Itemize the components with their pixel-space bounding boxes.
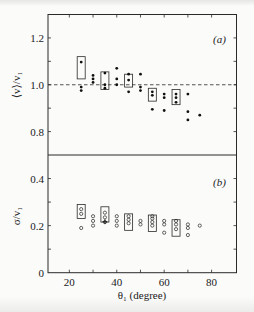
data-point-open [91,224,94,227]
y-tick-label: 0.4 [30,173,44,185]
y-tick-label: 0 [39,267,45,279]
data-point [80,61,83,64]
data-point [92,74,95,77]
data-point [186,110,189,113]
data-point [163,96,166,99]
panel-a-label: (a) [213,33,226,46]
data-point [92,81,95,84]
range-box [77,204,85,218]
data-point-open [163,223,166,226]
data-point [198,114,201,117]
data-point-open [80,226,83,229]
data-point [151,90,154,93]
data-point-open [163,219,166,222]
data-point-open [186,223,189,226]
data-point [92,77,95,80]
data-point-open [163,231,166,234]
two-panel-figure: 0.81.01.2 00.20.420406080 (a) (b) ⟨v⟩/v₁… [0,0,254,312]
y-axis-label-a: ⟨v⟩/v₁ [10,72,22,99]
data-point [139,89,142,92]
data-point [151,108,154,111]
data-point [163,109,166,112]
data-point-open [91,219,94,222]
range-box [125,214,133,230]
data-point [139,73,142,76]
panel-b-label: (b) [213,176,226,189]
data-point-open [115,215,118,218]
data-point [104,72,107,75]
y-tick-label: 1.0 [30,79,44,91]
data-point-open [151,217,154,220]
x-tick-label: 60 [159,276,171,288]
data-point-open [151,220,154,223]
data-point-open [174,223,177,226]
outer-frame [48,15,237,273]
plot-frame [48,15,237,273]
x-tick-label: 40 [111,276,123,288]
y-tick-label: 0.8 [30,126,44,138]
data-point [115,67,118,70]
data-point-open [139,223,142,226]
data-point-open [80,212,83,215]
data-point-open [103,216,106,219]
data-point [127,73,130,76]
data-point-open [115,224,118,227]
data-point [115,83,118,86]
data-point-open [127,222,130,225]
data-point [80,89,83,92]
data-point-open [186,226,189,229]
data-point [139,86,142,89]
data-point [175,101,178,104]
data-point [104,83,107,86]
data-point [115,77,118,80]
x-tick-label: 80 [206,276,218,288]
data-point-open [80,208,83,211]
data-point-open [115,219,118,222]
x-axis-label: θ₁ (degree) [118,289,167,302]
data-point [186,118,189,121]
data-point [127,90,130,93]
data-point-open [127,215,130,218]
data-point [127,79,130,82]
range-box [101,72,109,90]
figure-page: 0.81.01.2 00.20.420406080 (a) (b) ⟨v⟩/v₁… [0,0,254,312]
data-point [163,93,166,96]
data-point [80,86,83,89]
range-box [77,57,85,79]
data-point-open [139,219,142,222]
data-point [104,87,107,90]
data-point-open [186,233,189,236]
data-point-open [103,211,106,214]
y-tick-label: 0.2 [30,220,44,232]
data-point-open [174,228,177,231]
data-point [175,96,178,99]
y-axis-label-b: σ/v₁ [10,207,22,225]
x-tick-label: 20 [64,276,76,288]
data-point-open [91,215,94,218]
panel-a-mean-velocity: 0.81.01.2 [30,15,236,138]
data-point [175,93,178,96]
data-point [186,93,189,96]
data-point-open [151,224,154,227]
y-tick-label: 1.2 [30,32,44,44]
data-point-open [198,224,201,227]
data-point [151,94,154,97]
data-point-open [127,218,130,221]
panel-b-std-velocity: 00.20.420406080 [30,173,236,288]
